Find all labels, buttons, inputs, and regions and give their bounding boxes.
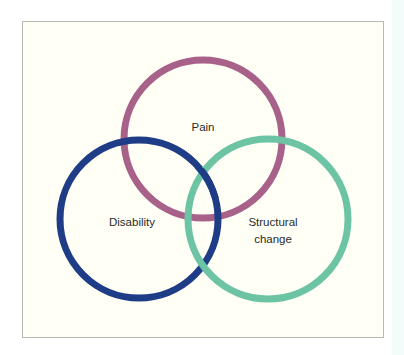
structural-label-line2: change [254, 233, 292, 245]
pain-label: Pain [191, 121, 214, 133]
venn-diagram: Pain Disability Structural change [0, 0, 404, 355]
structural-label-line1: Structural [248, 216, 297, 228]
disability-label: Disability [109, 216, 155, 228]
